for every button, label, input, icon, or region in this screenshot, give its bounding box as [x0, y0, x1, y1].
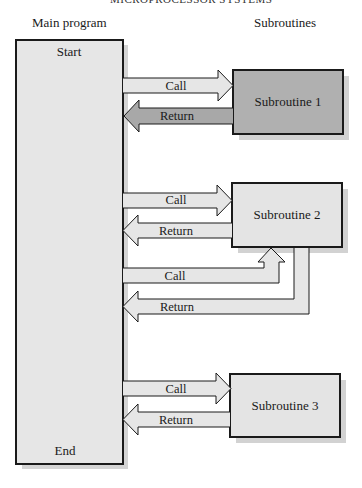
return-label-2a: Return [159, 224, 194, 238]
subroutine-2-label: Subroutine 2 [254, 207, 321, 222]
call-label-3: Call [166, 382, 187, 396]
call-arrow-2b [123, 248, 285, 283]
start-label: Start [57, 44, 82, 59]
subroutine-3-label: Subroutine 3 [252, 398, 319, 413]
call-label-2a: Call [166, 193, 187, 207]
call-label-2b: Call [165, 269, 186, 283]
return-label-2b: Return [160, 300, 195, 314]
return-label-1: Return [160, 109, 195, 123]
return-label-3: Return [159, 413, 194, 427]
diagram-canvas: Start End Subroutine 1 Call Return Subro… [0, 0, 362, 488]
subroutine-1-group: Subroutine 1 Call Return [123, 70, 349, 140]
end-label: End [55, 443, 76, 458]
call-label-1: Call [166, 79, 187, 93]
main-program-box: Start End [16, 40, 128, 469]
subroutine-2-group: Subroutine 2 Call Return Call Return [123, 183, 348, 322]
subroutine-diagram: MICROPROCESSOR SYSTEMS Main program Subr… [0, 0, 362, 488]
subroutine-1-label: Subroutine 1 [255, 94, 322, 109]
subroutine-3-group: Subroutine 3 Call Return [123, 373, 346, 443]
